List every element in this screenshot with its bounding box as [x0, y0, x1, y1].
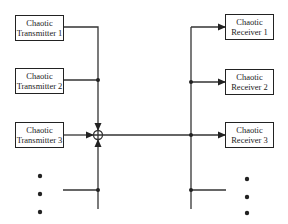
box-label: Receiver 2 — [231, 82, 268, 92]
ellipsis-dot — [245, 177, 249, 181]
ellipsis-dot — [38, 210, 42, 214]
receiver-2-box: Chaotic Receiver 2 — [225, 69, 274, 95]
ellipsis-dot — [38, 174, 42, 178]
box-label: Receiver 1 — [231, 27, 268, 37]
receiver-1-box: Chaotic Receiver 1 — [225, 14, 274, 40]
ellipsis-dot — [245, 195, 249, 199]
junction-dot — [96, 78, 100, 82]
transmitter-2-box: Chaotic Transmitter 2 — [15, 68, 64, 94]
box-label: Transmitter 2 — [17, 81, 63, 91]
junction-dot — [96, 188, 100, 192]
box-label: Chaotic — [26, 18, 52, 28]
ellipsis-dot — [38, 192, 42, 196]
junction-dot — [189, 133, 193, 137]
box-label: Chaotic — [236, 125, 262, 135]
junction-dot — [189, 80, 193, 84]
transmitter-1-link — [63, 27, 98, 130]
box-label: Receiver 3 — [231, 135, 268, 145]
box-label: Transmitter 3 — [17, 135, 63, 145]
box-label: Chaotic — [26, 125, 52, 135]
ellipsis-dot — [245, 211, 249, 215]
transmitter-3-box: Chaotic Transmitter 3 — [15, 122, 64, 148]
box-label: Chaotic — [236, 72, 262, 82]
junction-dot — [189, 188, 193, 192]
box-label: Transmitter 1 — [17, 28, 63, 38]
transmitter-1-box: Chaotic Transmitter 1 — [15, 15, 64, 41]
box-label: Chaotic — [236, 17, 262, 27]
receiver-3-box: Chaotic Receiver 3 — [225, 122, 274, 148]
box-label: Chaotic — [26, 71, 52, 81]
